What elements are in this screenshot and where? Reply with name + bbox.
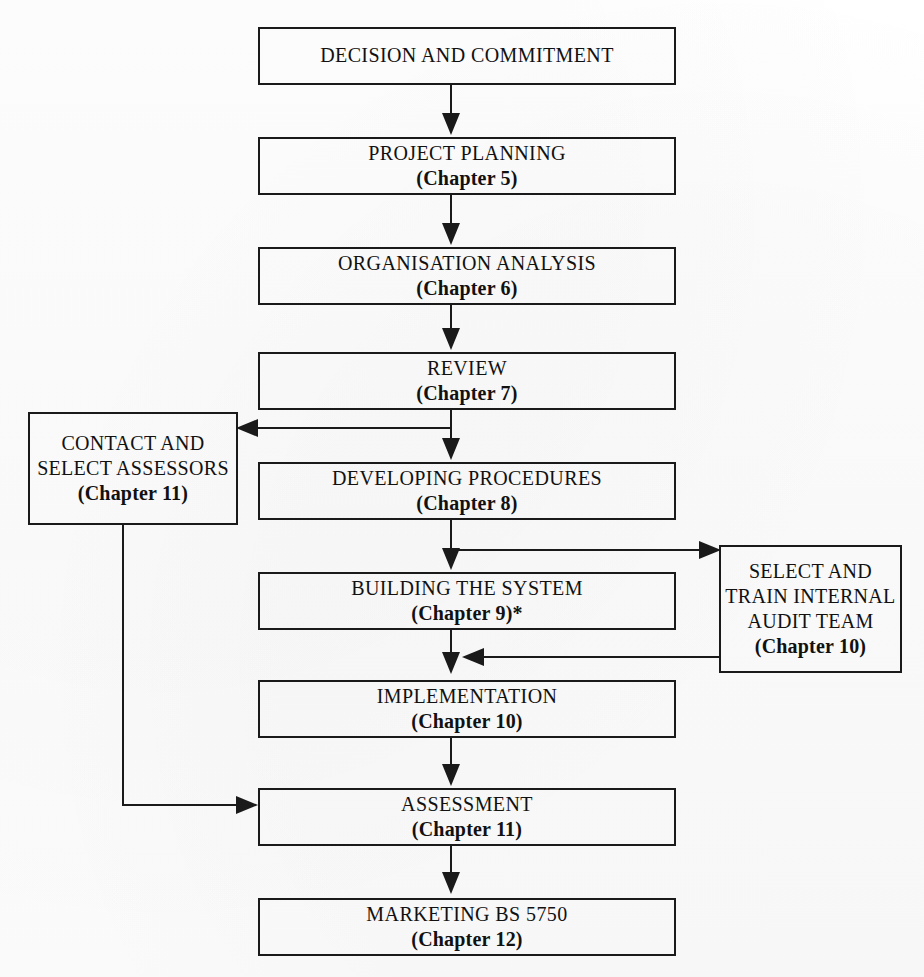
connector-developing-procedures-to-audit-team-line — [450, 549, 705, 551]
node-project-planning[interactable]: PROJECT PLANNING (Chapter 5) — [258, 137, 676, 195]
connector-implementation-to-assessment-line — [450, 738, 452, 766]
node-building-the-system-chapter: (Chapter 9)* — [411, 601, 522, 626]
connector-organisation-analysis-to-review-line — [450, 305, 452, 330]
connector-decision-to-project-planning-line — [450, 85, 452, 115]
connector-organisation-analysis-to-review-arrow — [442, 328, 460, 350]
connector-review-to-contact-assessors-arrow — [236, 419, 258, 437]
node-building-the-system-title: BUILDING THE SYSTEM — [351, 576, 583, 601]
node-developing-procedures-title: DEVELOPING PROCEDURES — [332, 466, 602, 491]
node-organisation-analysis-chapter: (Chapter 6) — [416, 276, 517, 301]
connector-project-planning-to-organisation-analysis-arrow — [442, 223, 460, 245]
connector-contact-assessors-to-assessment-vertical — [122, 525, 124, 806]
connector-developing-procedures-to-audit-team-arrow — [699, 541, 721, 559]
connector-building-system-to-implementation-arrow — [442, 652, 460, 674]
node-marketing-bs-5750[interactable]: MARKETING BS 5750 (Chapter 12) — [258, 898, 676, 956]
connector-review-to-developing-procedures-arrow — [442, 438, 460, 460]
node-contact-and-select-assessors-chapter: (Chapter 11) — [78, 481, 188, 506]
node-assessment[interactable]: ASSESSMENT (Chapter 11) — [258, 788, 676, 846]
node-project-planning-title: PROJECT PLANNING — [368, 141, 566, 166]
node-select-and-train-internal-audit-team-title-line-1: SELECT AND — [749, 559, 872, 584]
node-building-the-system-chapter-text: (Chapter 9) — [411, 602, 512, 624]
node-project-planning-chapter: (Chapter 5) — [416, 166, 517, 191]
connector-decision-to-project-planning-arrow — [442, 113, 460, 135]
footnote-asterisk-icon: * — [513, 602, 523, 624]
node-select-and-train-internal-audit-team-chapter: (Chapter 10) — [755, 634, 866, 659]
connector-contact-assessors-to-assessment-horizontal — [122, 804, 238, 806]
connector-audit-team-to-implementation-line — [480, 656, 720, 658]
connector-review-to-contact-assessors-line — [250, 427, 452, 429]
flowchart-canvas: DECISION AND COMMITMENT PROJECT PLANNING… — [0, 0, 924, 977]
node-implementation[interactable]: IMPLEMENTATION (Chapter 10) — [258, 680, 676, 738]
node-select-and-train-internal-audit-team[interactable]: SELECT AND TRAIN INTERNAL AUDIT TEAM (Ch… — [719, 545, 902, 673]
connector-audit-team-to-implementation-arrow — [462, 648, 484, 666]
node-organisation-analysis-title: ORGANISATION ANALYSIS — [338, 251, 596, 276]
node-developing-procedures-chapter: (Chapter 8) — [416, 491, 517, 516]
node-select-and-train-internal-audit-team-title-line-3: AUDIT TEAM — [747, 609, 873, 634]
node-review-chapter: (Chapter 7) — [416, 381, 517, 406]
node-decision-and-commitment-title: DECISION AND COMMITMENT — [320, 43, 614, 68]
node-decision-and-commitment[interactable]: DECISION AND COMMITMENT — [258, 27, 676, 85]
node-review-title: REVIEW — [427, 356, 507, 381]
connector-assessment-to-marketing-arrow — [442, 872, 460, 894]
node-assessment-title: ASSESSMENT — [401, 792, 533, 817]
node-marketing-bs-5750-title: MARKETING BS 5750 — [366, 902, 567, 927]
node-building-the-system[interactable]: BUILDING THE SYSTEM (Chapter 9)* — [258, 572, 676, 630]
connector-project-planning-to-organisation-analysis-line — [450, 195, 452, 225]
node-contact-and-select-assessors-title-line-1: CONTACT AND — [61, 431, 204, 456]
node-contact-and-select-assessors[interactable]: CONTACT AND SELECT ASSESSORS (Chapter 11… — [28, 412, 238, 525]
node-review[interactable]: REVIEW (Chapter 7) — [258, 352, 676, 410]
node-marketing-bs-5750-chapter: (Chapter 12) — [411, 927, 522, 952]
connector-developing-procedures-to-building-system-arrow — [442, 548, 460, 570]
connector-contact-assessors-to-assessment-arrow — [236, 796, 258, 814]
node-implementation-title: IMPLEMENTATION — [377, 684, 558, 709]
connector-assessment-to-marketing-line — [450, 846, 452, 874]
node-organisation-analysis[interactable]: ORGANISATION ANALYSIS (Chapter 6) — [258, 247, 676, 305]
connector-implementation-to-assessment-arrow — [442, 764, 460, 786]
node-implementation-chapter: (Chapter 10) — [411, 709, 522, 734]
node-contact-and-select-assessors-title-line-2: SELECT ASSESSORS — [37, 456, 229, 481]
node-developing-procedures[interactable]: DEVELOPING PROCEDURES (Chapter 8) — [258, 462, 676, 520]
connector-review-to-developing-procedures-line — [450, 410, 452, 440]
node-assessment-chapter: (Chapter 11) — [412, 817, 522, 842]
node-select-and-train-internal-audit-team-title-line-2: TRAIN INTERNAL — [725, 584, 895, 609]
connector-developing-procedures-to-building-system-line — [450, 520, 452, 550]
